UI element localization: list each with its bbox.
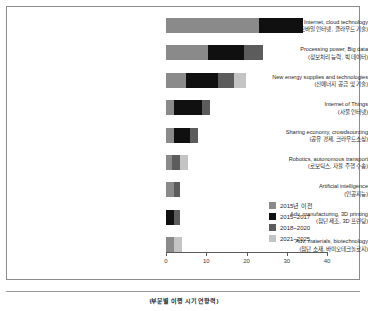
bar-row <box>166 45 263 60</box>
bar-segment <box>244 45 262 60</box>
bar-segment <box>166 128 174 143</box>
caption-divider <box>6 291 360 292</box>
bar-segment <box>202 100 210 115</box>
x-tick-label-30: 30 <box>283 257 290 265</box>
x-tick-10 <box>206 252 207 256</box>
x-tick-label-0: 0 <box>164 257 167 265</box>
x-tick-0 <box>166 252 167 256</box>
bar-segment <box>180 155 188 170</box>
bar-row <box>166 210 180 225</box>
legend-item: 2015~2017 <box>269 211 335 222</box>
bar-segment <box>166 182 174 197</box>
legend-label: 2015년 이전 <box>280 202 313 210</box>
bar-row <box>166 128 198 143</box>
bar-row <box>166 18 303 33</box>
legend-swatch <box>269 213 276 220</box>
bar-segment <box>186 73 218 88</box>
bar-segment <box>218 73 234 88</box>
bar-segment <box>166 45 208 60</box>
x-tick-label-40: 40 <box>324 257 331 265</box>
legend-swatch <box>269 202 276 209</box>
bar-segment <box>234 73 246 88</box>
bar-segment <box>172 155 180 170</box>
bar-row <box>166 237 182 252</box>
chart-figure: Mobile Internet, cloud technology(모바일 인터… <box>0 0 368 311</box>
bar-segment <box>174 100 202 115</box>
bar-segment <box>259 18 303 33</box>
x-tick-label-10: 10 <box>203 257 210 265</box>
legend-swatch <box>269 235 276 242</box>
bar-row <box>166 182 180 197</box>
legend-item: 2015년 이전 <box>269 200 335 211</box>
bar-segment <box>166 18 259 33</box>
bar-segment <box>174 128 190 143</box>
legend-item: 2018~2020 <box>269 222 335 233</box>
bar-segment <box>166 73 186 88</box>
legend-label: 2021~2025 <box>280 235 310 243</box>
bar-segment <box>208 45 244 60</box>
bar-segment <box>174 210 180 225</box>
x-tick-40 <box>327 252 328 256</box>
bar-segment <box>166 210 174 225</box>
x-tick-30 <box>287 252 288 256</box>
bar-segment <box>166 100 174 115</box>
legend-label: 2015~2017 <box>280 213 310 221</box>
bar-row <box>166 73 246 88</box>
bar-segment <box>166 237 174 252</box>
x-tick-label-20: 20 <box>243 257 250 265</box>
legend-item: 2021~2025 <box>269 233 335 244</box>
bar-segment <box>190 128 198 143</box>
legend-label: 2018~2020 <box>280 224 310 232</box>
bar-row <box>166 155 188 170</box>
bar-segment <box>174 182 180 197</box>
bar-row <box>166 100 210 115</box>
legend-swatch <box>269 224 276 231</box>
bar-segment <box>174 237 182 252</box>
x-tick-20 <box>247 252 248 256</box>
chart-legend: 2015년 이전2015~20172018~20202021~2025 <box>266 197 338 247</box>
figure-caption: (부문별 이행 시기 연향력) <box>0 296 368 305</box>
